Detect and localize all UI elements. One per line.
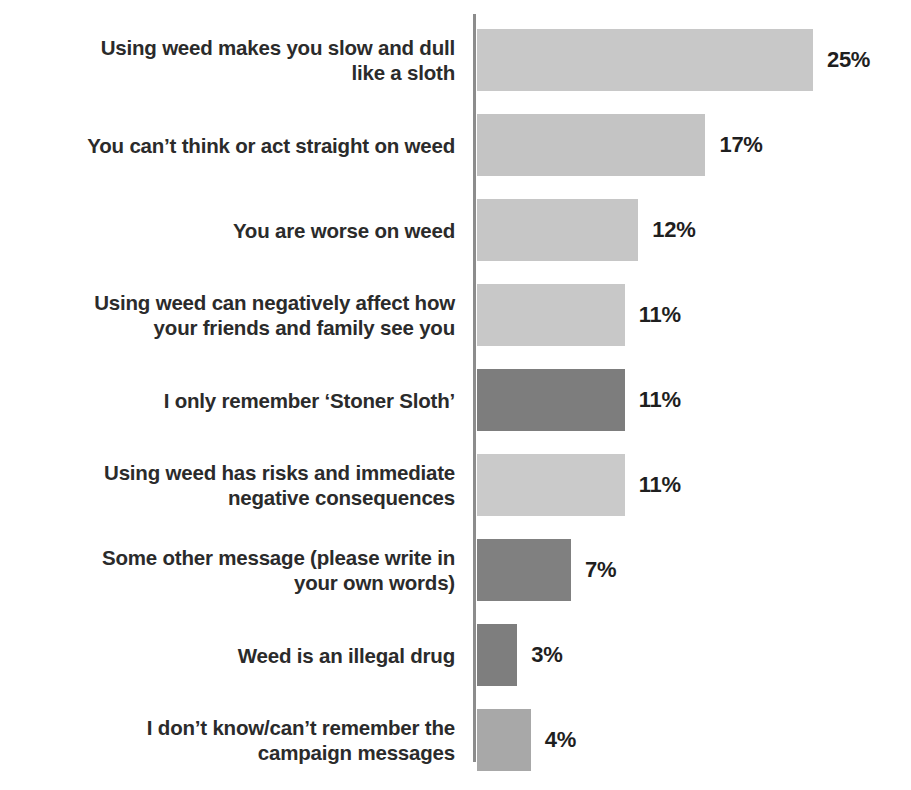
plot-area: Using weed makes you slow and dulllike a… <box>0 0 911 790</box>
bar-row: Some other message (please write inyour … <box>0 539 911 601</box>
bar-value-label: 11% <box>639 302 681 328</box>
bar-category-label-line: your friends and family see you <box>10 315 455 340</box>
bar <box>477 284 625 346</box>
bar-category-label: You can’t think or act straight on weed <box>10 133 455 158</box>
bar <box>477 199 638 261</box>
bar <box>477 539 571 601</box>
bar-category-label-line: Some other message (please write in <box>10 545 455 570</box>
bar-chart: Using weed makes you slow and dulllike a… <box>0 0 911 790</box>
bar-value-label: 17% <box>719 132 762 158</box>
bar-category-label-line: like a sloth <box>10 60 455 85</box>
bar-category-label: Using weed makes you slow and dulllike a… <box>10 35 455 85</box>
bar-category-label-line: negative consequences <box>10 485 455 510</box>
bar-category-label-line: Using weed has risks and immediate <box>10 460 455 485</box>
bar-row: I only remember ‘Stoner Sloth’11% <box>0 369 911 431</box>
bar <box>477 114 705 176</box>
bar-value-label: 11% <box>639 472 681 498</box>
bar <box>477 369 625 431</box>
bar-category-label-line: I don’t know/can’t remember the <box>10 715 455 740</box>
bar-value-label: 7% <box>585 557 616 583</box>
bar <box>477 709 531 771</box>
bar-row: You are worse on weed12% <box>0 199 911 261</box>
bar-category-label: You are worse on weed <box>10 218 455 243</box>
bar-row: Using weed has risks and immediatenegati… <box>0 454 911 516</box>
bar-row: You can’t think or act straight on weed1… <box>0 114 911 176</box>
bar <box>477 29 813 91</box>
bar-category-label: Using weed has risks and immediatenegati… <box>10 460 455 510</box>
bar-value-label: 11% <box>639 387 681 413</box>
bar <box>477 624 517 686</box>
bar-category-label: Using weed can negatively affect howyour… <box>10 290 455 340</box>
bar <box>477 454 625 516</box>
bar-value-label: 12% <box>652 217 695 243</box>
bar-row: Weed is an illegal drug3% <box>0 624 911 686</box>
bar-value-label: 4% <box>545 727 576 753</box>
bar-value-label: 3% <box>531 642 562 668</box>
bar-row: Using weed can negatively affect howyour… <box>0 284 911 346</box>
bar-category-label-line: Using weed makes you slow and dull <box>10 35 455 60</box>
bar-value-label: 25% <box>827 47 870 73</box>
bar-category-label-line: your own words) <box>10 570 455 595</box>
bar-category-label: I don’t know/can’t remember thecampaign … <box>10 715 455 765</box>
bar-row: I don’t know/can’t remember thecampaign … <box>0 709 911 771</box>
bar-category-label: Some other message (please write inyour … <box>10 545 455 595</box>
bar-category-label-line: Using weed can negatively affect how <box>10 290 455 315</box>
bar-category-label: Weed is an illegal drug <box>10 643 455 668</box>
bar-row: Using weed makes you slow and dulllike a… <box>0 29 911 91</box>
bar-category-label: I only remember ‘Stoner Sloth’ <box>10 388 455 413</box>
bar-category-label-line: campaign messages <box>10 740 455 765</box>
